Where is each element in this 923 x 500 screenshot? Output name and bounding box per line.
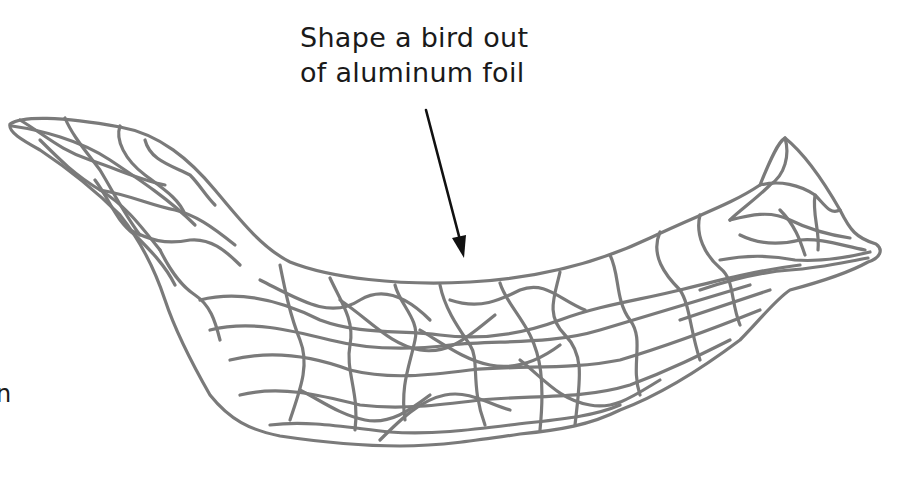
clipped-text-fragment: n xyxy=(0,380,11,408)
arrowhead-icon xyxy=(452,235,466,258)
annotation-label: Shape a bird out of aluminum foil xyxy=(300,20,560,90)
illustration-canvas: Shape a bird out of aluminum foil n xyxy=(0,0,923,500)
annotation-line-2: of aluminum foil xyxy=(300,55,560,90)
annotation-arrow xyxy=(426,110,466,258)
foil-mesh xyxy=(10,118,880,446)
foil-outline-icon xyxy=(10,118,880,446)
annotation-line-1: Shape a bird out xyxy=(300,20,560,55)
